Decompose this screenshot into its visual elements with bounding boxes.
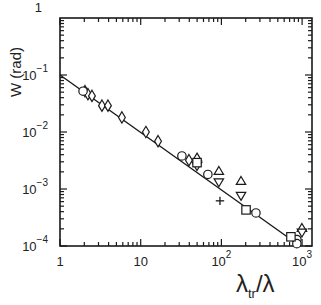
triangle-down-marker xyxy=(236,192,245,200)
x-axis-title-tail: /λ xyxy=(256,270,275,297)
circle-marker xyxy=(178,152,186,160)
x-axis-title: λtr/λ xyxy=(236,270,275,301)
y-tick-label: 1 xyxy=(35,0,42,15)
square-marker xyxy=(193,158,201,166)
x-tick-label: 1 xyxy=(56,254,63,269)
x-tick-label: 102 xyxy=(211,249,231,269)
axis-ticks xyxy=(60,18,312,246)
circle-marker xyxy=(79,87,87,95)
x-tick-label: 103 xyxy=(292,249,312,269)
tick-labels: 110102103110−110−210−310−4 xyxy=(22,0,312,269)
y-axis-title-text: W (rad) xyxy=(7,47,24,97)
square-marker xyxy=(242,206,250,214)
y-tick-label: 10−1 xyxy=(22,63,48,83)
diamond-marker xyxy=(143,126,150,137)
y-tick-label: 10−2 xyxy=(22,120,48,140)
triangle-up-marker xyxy=(236,176,245,184)
diamond-marker xyxy=(155,135,162,146)
square-marker xyxy=(287,233,295,241)
diamond-marker xyxy=(105,100,112,111)
svg-text:λtr/λ: λtr/λ xyxy=(236,270,275,301)
y-tick-label: 10−4 xyxy=(22,234,48,254)
x-tick-label: 10 xyxy=(133,254,147,269)
plot-border xyxy=(60,18,312,246)
y-axis-title: W (rad) xyxy=(7,47,24,97)
y-tick-label: 10−3 xyxy=(22,177,48,197)
triangle-up-marker xyxy=(214,166,223,174)
circle-marker xyxy=(204,170,212,178)
chart: 110102103110−110−210−310−4 W (rad) λtr/λ xyxy=(0,0,321,305)
plot-frame xyxy=(60,18,312,246)
data-points xyxy=(79,85,307,247)
circle-marker xyxy=(252,209,260,217)
x-axis-title-lambda: λ xyxy=(236,270,248,297)
